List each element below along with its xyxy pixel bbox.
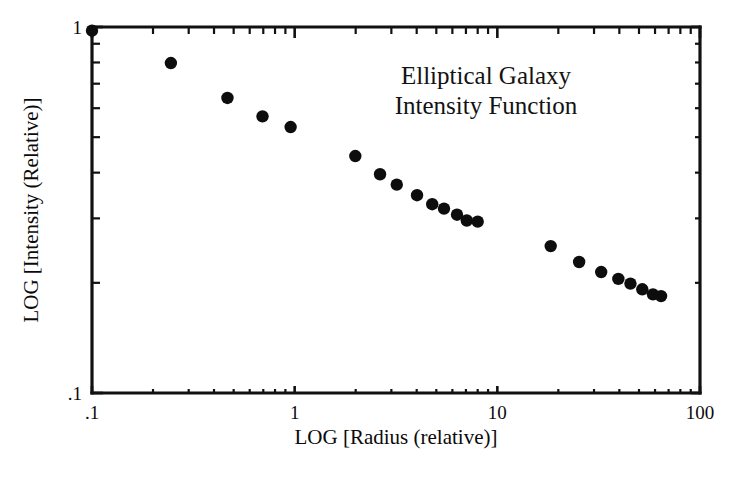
data-point [391,178,403,190]
chart-title-line-1: Elliptical Galaxy [401,62,572,89]
data-point [573,256,585,268]
data-point [655,290,667,302]
data-point [461,214,473,226]
x-tick-label: .1 [85,402,99,423]
x-axis-title: LOG [Radius (relative)] [295,425,498,449]
figure-container: .1110100 1.1 LOG [Radius (relative)] LOG… [0,0,735,482]
y-axis-title: LOG [Intensity (Relative)] [19,97,43,322]
chart-title-line-2: Intensity Function [395,92,578,119]
y-tick-label: .1 [68,383,82,404]
x-tick-label: 100 [686,402,715,423]
data-point [636,283,648,295]
data-point [411,189,423,201]
data-point [545,240,557,252]
x-tick-label: 1 [290,402,300,423]
data-point [438,202,450,214]
figure-background [0,0,735,482]
data-point [426,198,438,210]
data-point [612,273,624,285]
data-point [624,277,636,289]
x-tick-label: 10 [488,402,507,423]
data-point [165,57,177,69]
data-point [349,150,361,162]
data-point [595,266,607,278]
elliptical-galaxy-scatter-plot: .1110100 1.1 LOG [Radius (relative)] LOG… [0,0,735,482]
data-point [374,168,386,180]
data-point [86,24,98,36]
data-point [284,121,296,133]
data-point [221,92,233,104]
y-tick-label: 1 [73,17,83,38]
data-point [256,110,268,122]
data-point [471,215,483,227]
